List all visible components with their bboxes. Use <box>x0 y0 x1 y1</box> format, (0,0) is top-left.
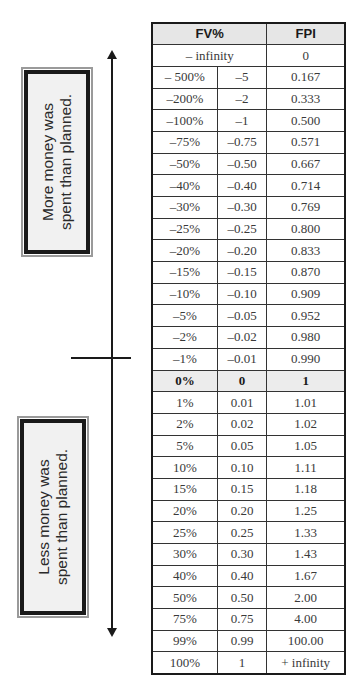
cell-fv-decimal: 0.30 <box>217 544 266 566</box>
table-row-zero: 0%01 <box>152 370 345 392</box>
cell-fv-percent: –5% <box>152 305 217 327</box>
table-row: 10%0.101.11 <box>152 457 345 479</box>
cell-fv-decimal: –0.10 <box>217 283 266 305</box>
cell-fpi: 0.571 <box>267 131 345 153</box>
arrow-up-icon <box>107 50 117 59</box>
cell-fv-decimal: –0.20 <box>217 240 266 262</box>
table-row: 25%0.251.33 <box>152 522 345 544</box>
cell-fv-decimal: –1 <box>217 110 266 132</box>
cell-fv-percent: –1% <box>152 348 217 370</box>
table-row: –2%–0.020.980 <box>152 327 345 349</box>
cell-fv-decimal: –0.75 <box>217 131 266 153</box>
cell-fpi: 0.167 <box>267 66 345 88</box>
zero-crossbar <box>71 357 131 359</box>
cell-fv-decimal: –2 <box>217 88 266 110</box>
arrow-down-icon <box>107 628 117 637</box>
cell-fpi: 1.11 <box>267 457 345 479</box>
cell-fpi: 1.33 <box>267 522 345 544</box>
table-row: 20%0.201.25 <box>152 500 345 522</box>
table-row: – 500%–50.167 <box>152 66 345 88</box>
cell-fv-percent: 25% <box>152 522 217 544</box>
table-row: –75%–0.750.571 <box>152 131 345 153</box>
cell-fpi: 1.05 <box>267 435 345 457</box>
cell-fv-percent: –2% <box>152 327 217 349</box>
table-row: –15%–0.150.870 <box>152 262 345 284</box>
table-row: – infinity 0 <box>152 45 345 67</box>
cell-fv-percent: 30% <box>152 544 217 566</box>
overspent-label-line-1: More money was <box>39 94 57 230</box>
cell-fpi: 0.500 <box>267 110 345 132</box>
cell-fv-decimal: 0.25 <box>217 522 266 544</box>
overspent-label-line-2: spent than planned. <box>57 94 75 230</box>
cell-fv-decimal: –5 <box>217 66 266 88</box>
table-row: 15%0.151.18 <box>152 478 345 500</box>
cell-fv-percent: 1% <box>152 392 217 414</box>
cell-fpi: 0.769 <box>267 197 345 219</box>
table-row: –25%–0.250.800 <box>152 218 345 240</box>
cell-fv-decimal: 0.01 <box>217 392 266 414</box>
underspent-label-line-1: Less money was <box>35 449 53 585</box>
cell-fv-percent: –100% <box>152 110 217 132</box>
cell-fv-decimal: 0.15 <box>217 478 266 500</box>
cell-fpi: 1.01 <box>267 392 345 414</box>
cell-fv-percent: –15% <box>152 262 217 284</box>
cell-fv-percent: –30% <box>152 197 217 219</box>
cell-fv-decimal: 0.05 <box>217 435 266 457</box>
cell-fpi: 0.990 <box>267 348 345 370</box>
cell-fpi: 0.667 <box>267 153 345 175</box>
table-row: 1%0.011.01 <box>152 392 345 414</box>
cell-fv-decimal: –0.02 <box>217 327 266 349</box>
cell-fv-decimal: –0.05 <box>217 305 266 327</box>
cell-fv-percent: 99% <box>152 630 217 652</box>
cell-fpi: 1 <box>267 370 345 392</box>
cell-fv-decimal: –0.15 <box>217 262 266 284</box>
table-row: –100%–10.500 <box>152 110 345 132</box>
cell-fpi: 0.714 <box>267 175 345 197</box>
cell-fpi: 0.870 <box>267 262 345 284</box>
cell-fpi: 0.833 <box>267 240 345 262</box>
table-row: –10%–0.100.909 <box>152 283 345 305</box>
cell-fv-decimal: 0.02 <box>217 413 266 435</box>
cell-fv-percent: –50% <box>152 153 217 175</box>
cell-fv-percent: – 500% <box>152 66 217 88</box>
table-row: 30%0.301.43 <box>152 544 345 566</box>
cell-fv-percent: 2% <box>152 413 217 435</box>
cell-fv-decimal: 0.20 <box>217 500 266 522</box>
table-header-row: FV% FPI <box>152 23 345 45</box>
table-row: –30%–0.300.769 <box>152 197 345 219</box>
cell-fv-percent: –40% <box>152 175 217 197</box>
cell-fpi: 1.18 <box>267 478 345 500</box>
table-row: 100%1+ infinity <box>152 652 345 674</box>
table-row: –20%–0.200.833 <box>152 240 345 262</box>
cell-fv-percent: 5% <box>152 435 217 457</box>
cell-fpi: 1.02 <box>267 413 345 435</box>
cell-fv-decimal: 0.50 <box>217 587 266 609</box>
cell-fv-percent: 15% <box>152 478 217 500</box>
cell-fv-percent: – infinity <box>152 45 267 67</box>
table-row: 99%0.99100.00 <box>152 630 345 652</box>
table-row: 40%0.401.67 <box>152 565 345 587</box>
table-row: 5%0.051.05 <box>152 435 345 457</box>
overspent-label: More money was spent than planned. <box>39 94 75 230</box>
cell-fpi: 0.952 <box>267 305 345 327</box>
underspent-label-box: Less money was spent than planned. <box>20 419 86 615</box>
cell-fv-decimal: 0.99 <box>217 630 266 652</box>
cell-fv-decimal: –0.25 <box>217 218 266 240</box>
cell-fpi: 0.909 <box>267 283 345 305</box>
table-row: –1%–0.010.990 <box>152 348 345 370</box>
cell-fv-decimal: 1 <box>217 652 266 674</box>
cell-fv-percent: 10% <box>152 457 217 479</box>
cell-fpi: 0.333 <box>267 88 345 110</box>
cell-fpi: 1.43 <box>267 544 345 566</box>
cell-fpi: 1.67 <box>267 565 345 587</box>
cell-fv-percent: –75% <box>152 131 217 153</box>
cell-fv-percent: 50% <box>152 587 217 609</box>
cell-fv-percent: 40% <box>152 565 217 587</box>
cell-fv-percent: –20% <box>152 240 217 262</box>
cell-fv-decimal: 0.40 <box>217 565 266 587</box>
cell-fv-percent: 20% <box>152 500 217 522</box>
cell-fv-decimal: 0.10 <box>217 457 266 479</box>
cell-fv-percent: 75% <box>152 609 217 631</box>
cell-fpi: 0.980 <box>267 327 345 349</box>
cell-fv-decimal: –0.50 <box>217 153 266 175</box>
